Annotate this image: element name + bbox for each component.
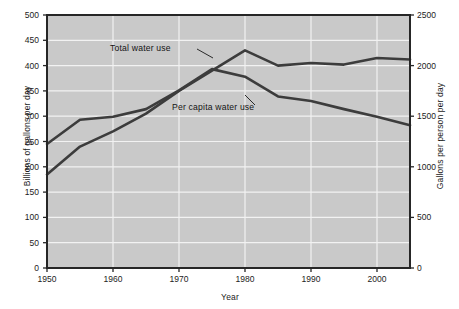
annotation-per-capita-water-use: Per capita water use — [172, 102, 254, 112]
right-axis-title: Gallons per person per day — [435, 51, 445, 221]
annotation-total-water-use: Total water use — [110, 43, 171, 53]
tick-label-right: 0 — [417, 263, 449, 273]
tick-label-bottom: 2000 — [357, 274, 397, 284]
tick-label-left: 500 — [11, 10, 39, 20]
tick-label-bottom: 1970 — [159, 274, 199, 284]
x-axis-title: Year — [170, 292, 290, 302]
tick-label-bottom: 1990 — [291, 274, 331, 284]
tick-label-bottom: 1950 — [27, 274, 67, 284]
left-axis-title: Billions of gallons per day — [22, 51, 32, 221]
tick-label-left: 0 — [11, 263, 39, 273]
tick-label-bottom: 1980 — [225, 274, 265, 284]
tick-label-left: 50 — [11, 238, 39, 248]
water-use-chart-figure: 050100150200250300350400450500 050010001… — [0, 0, 459, 309]
tick-label-bottom: 1960 — [93, 274, 133, 284]
tick-label-left: 450 — [11, 35, 39, 45]
chart-plot-svg — [0, 0, 459, 309]
tick-label-right: 2500 — [417, 10, 449, 20]
